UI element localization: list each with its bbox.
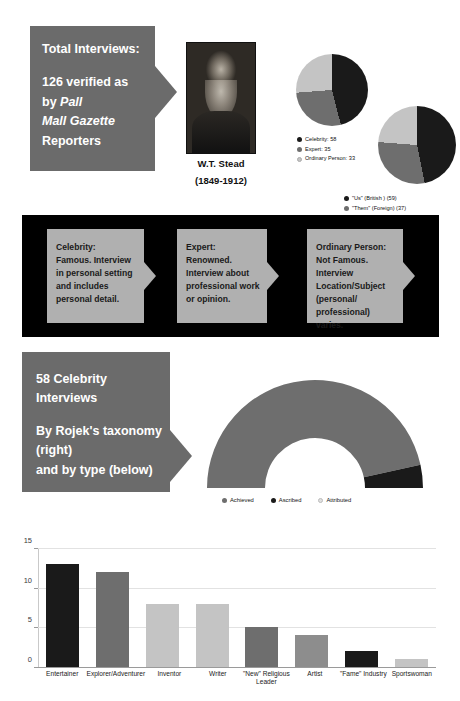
definition-body: Not Famous. Interview Location/Subject (… bbox=[316, 254, 397, 332]
celebrity-line1: 58 Celebrity bbox=[36, 370, 162, 389]
y-axis-tick-label: 0 bbox=[16, 655, 32, 664]
bar-new-religious-leader bbox=[245, 627, 278, 667]
legend-item: Celebrity: 58 bbox=[297, 135, 355, 145]
definition-body: Famous. Interview in personal setting an… bbox=[56, 254, 138, 306]
legend-label: "Us" (British ) (59) bbox=[352, 194, 397, 204]
x-axis-label: "New" Religious Leader bbox=[242, 670, 290, 686]
bar-cell bbox=[386, 548, 436, 667]
legend-swatch-icon bbox=[344, 206, 349, 211]
x-axis-label: "Fame" Industry bbox=[339, 670, 387, 686]
legend-item: "Us" (British ) (59) bbox=[344, 194, 422, 204]
infographic-page: Total Interviews: 126 verified as by Pal… bbox=[0, 0, 460, 701]
bar-fame-industry bbox=[345, 651, 378, 667]
celebrity-line2: Interviews bbox=[36, 389, 162, 408]
portrait-body-shape bbox=[192, 111, 249, 153]
arrow-right-icon bbox=[403, 262, 415, 290]
celebrity-line5: and by type (below) bbox=[36, 461, 162, 480]
definition-heading: Ordinary Person: bbox=[316, 241, 397, 254]
total-interviews-line3: Mall Gazette bbox=[42, 112, 145, 131]
spacer bbox=[36, 409, 162, 422]
legend-swatch-icon bbox=[344, 196, 349, 201]
legend-item: Expert: 35 bbox=[297, 145, 355, 155]
x-axis-label: Sportswoman bbox=[388, 670, 436, 686]
x-axis-labels: EntertainerExplorer/AdventurerInventorWr… bbox=[38, 670, 436, 686]
definition-card-expert: Expert: Renowned. Interview about profes… bbox=[177, 229, 267, 323]
y-axis-tick-label: 5 bbox=[16, 615, 32, 624]
legend-label: Ordinary Person: 33 bbox=[305, 154, 355, 164]
y-axis-tick-label: 15 bbox=[16, 536, 32, 545]
x-axis-label: Entertainer bbox=[38, 670, 86, 686]
x-axis-label: Explorer/Adventurer bbox=[86, 670, 145, 686]
definition-heading: Celebrity: bbox=[56, 241, 138, 254]
bar-cell bbox=[38, 548, 88, 667]
legend-label: Attributed bbox=[326, 497, 351, 503]
celebrity-interviews-panel: 58 Celebrity Interviews By Rojek's taxon… bbox=[22, 352, 170, 492]
legend-swatch-icon bbox=[318, 498, 323, 503]
legend-swatch-icon bbox=[297, 157, 302, 162]
legend-label: Expert: 35 bbox=[305, 145, 331, 155]
portrait-caption-name: W.T. Stead bbox=[186, 158, 256, 171]
x-axis-line bbox=[38, 667, 436, 668]
definition-body: Renowned. Interview about professional w… bbox=[186, 254, 261, 306]
legend-swatch-icon bbox=[271, 498, 276, 503]
x-axis-label: Artist bbox=[291, 670, 339, 686]
celebrity-line4: (right) bbox=[36, 441, 162, 460]
arrow-right-icon bbox=[155, 66, 177, 118]
portrait-image-wt-stead bbox=[186, 42, 256, 154]
bar-cell bbox=[237, 548, 287, 667]
donut-segment-achieved bbox=[207, 380, 420, 488]
bar-inventor bbox=[146, 604, 179, 667]
legend-label: "Them" (Foreign) (37) bbox=[352, 204, 406, 214]
legend-label: Achieved bbox=[230, 497, 254, 503]
arrow-right-icon bbox=[267, 262, 279, 290]
bar-cell bbox=[138, 548, 188, 667]
bars-group bbox=[38, 548, 436, 667]
half-donut-legend: AchievedAscribedAttributed bbox=[222, 497, 351, 503]
x-axis-label: Writer bbox=[194, 670, 242, 686]
portrait-caption-years: (1849-1912) bbox=[186, 175, 256, 188]
legend-item: Ascribed bbox=[271, 497, 302, 503]
legend-label: Celebrity: 58 bbox=[305, 135, 336, 145]
total-interviews-line1: 126 verified as bbox=[42, 73, 145, 92]
celebrity-line3: By Rojek's taxonomy bbox=[36, 422, 162, 441]
bar-writer bbox=[196, 604, 229, 667]
arrow-right-icon bbox=[170, 430, 192, 482]
legend-swatch-icon bbox=[297, 137, 302, 142]
arrow-right-icon bbox=[144, 262, 156, 290]
legend-label: Ascribed bbox=[279, 497, 302, 503]
bar-chart-plot-area: 051015 bbox=[38, 548, 436, 668]
bar-explorer-adventurer bbox=[96, 572, 129, 667]
bar-cell bbox=[287, 548, 337, 667]
x-axis-label: Inventor bbox=[145, 670, 193, 686]
total-interviews-line4: Reporters bbox=[42, 132, 145, 151]
total-interviews-line2: by Pall bbox=[42, 93, 145, 112]
legend-item: Attributed bbox=[318, 497, 351, 503]
total-interviews-panel: Total Interviews: 126 verified as by Pal… bbox=[30, 26, 155, 171]
half-donut-rojek-taxonomy bbox=[205, 378, 425, 490]
legend-swatch-icon bbox=[297, 147, 302, 152]
pie1-legend: Celebrity: 58Expert: 35Ordinary Person: … bbox=[297, 135, 355, 164]
bar-cell bbox=[337, 548, 387, 667]
pie-chart-us-them-framing bbox=[378, 106, 456, 184]
legend-swatch-icon bbox=[222, 498, 227, 503]
legend-item: Ordinary Person: 33 bbox=[297, 154, 355, 164]
section-total-interviews: Total Interviews: 126 verified as by Pal… bbox=[0, 18, 460, 198]
total-interviews-title: Total Interviews: bbox=[42, 40, 145, 59]
definition-card-celebrity: Celebrity: Famous. Interview in personal… bbox=[47, 229, 144, 323]
legend-item: "Them" (Foreign) (37) bbox=[344, 204, 422, 214]
legend-item: Achieved bbox=[222, 497, 254, 503]
section-celebrity-type-bar-chart: 051015 EntertainerExplorer/AdventurerInv… bbox=[0, 548, 460, 701]
portrait-block: W.T. Stead (1849-1912) bbox=[186, 42, 256, 188]
definition-card-ordinary-person: Ordinary Person: Not Famous. Interview L… bbox=[307, 229, 403, 323]
section-definitions-band: Celebrity: Famous. Interview in personal… bbox=[22, 215, 439, 337]
pie-chart-interview-subject-type bbox=[296, 54, 368, 126]
bar-entertainer bbox=[46, 564, 79, 667]
definition-heading: Expert: bbox=[186, 241, 261, 254]
bar-cell bbox=[88, 548, 138, 667]
bar-cell bbox=[187, 548, 237, 667]
bar-sportswoman bbox=[395, 659, 428, 667]
y-axis-tick-label: 10 bbox=[16, 575, 32, 584]
bar-artist bbox=[295, 635, 328, 667]
